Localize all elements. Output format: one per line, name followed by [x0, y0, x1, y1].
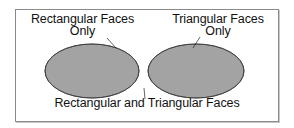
triangular-faces-only-label: Triangular Faces Only [163, 13, 273, 37]
intersection-label-text: Rectangular and Triangular Faces [40, 97, 254, 109]
intersection-label: Rectangular and Triangular Faces [40, 97, 254, 109]
rectangular-faces-only-label: Rectangular Faces Only [20, 13, 145, 37]
label-line-2: Only [163, 25, 273, 37]
label-line-2: Only [20, 25, 145, 37]
